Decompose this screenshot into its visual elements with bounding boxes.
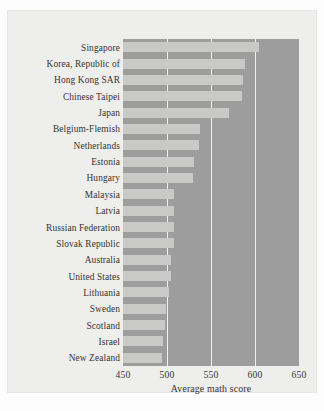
bar-row — [123, 320, 299, 330]
bar — [123, 271, 171, 281]
x-tick-label: 650 — [292, 369, 307, 381]
bar-row — [123, 157, 299, 167]
bar-row — [123, 75, 299, 85]
bar — [123, 75, 243, 85]
x-tick-label: 550 — [204, 369, 219, 381]
gridline-600 — [255, 39, 256, 366]
y-axis-label: Malaysia — [14, 190, 120, 200]
bar — [123, 189, 174, 199]
bar-row — [123, 189, 299, 199]
y-axis-label: Netherlands — [14, 141, 120, 151]
y-axis-label: Japan — [14, 108, 120, 118]
y-axis-label: Russian Federation — [14, 223, 120, 233]
y-axis-category-labels: SingaporeKorea, Republic ofHong Kong SAR… — [14, 39, 120, 366]
x-axis-title: Average math score — [123, 383, 299, 394]
y-axis-label: Israel — [14, 337, 120, 347]
bar — [123, 353, 162, 363]
y-axis-label: Korea, Republic of — [14, 59, 120, 69]
bar-row — [123, 173, 299, 183]
bar — [123, 108, 229, 118]
y-axis-label: Australia — [14, 255, 120, 265]
bar — [123, 336, 163, 346]
y-axis-label: New Zealand — [14, 353, 120, 363]
bar-row — [123, 238, 299, 248]
bar-row — [123, 304, 299, 314]
bar — [123, 287, 169, 297]
bar-row — [123, 140, 299, 150]
bar-row — [123, 108, 299, 118]
y-axis-label: Latvia — [14, 206, 120, 216]
bar — [123, 91, 242, 101]
x-tick-label: 600 — [248, 369, 263, 381]
bar — [123, 222, 174, 232]
y-axis-label: Sweden — [14, 304, 120, 314]
y-axis-label: Slovak Republic — [14, 239, 120, 249]
bar — [123, 140, 199, 150]
x-tick-label: 450 — [116, 369, 131, 381]
y-axis-label: Singapore — [14, 43, 120, 53]
bar-row — [123, 353, 299, 363]
bar-row — [123, 42, 299, 52]
bar — [123, 320, 165, 330]
x-axis-tick-labels: 450500550600650 — [123, 369, 299, 383]
bar — [123, 59, 245, 69]
y-axis-label: Belgium-Flemish — [14, 124, 120, 134]
bar-row — [123, 287, 299, 297]
figure-root: SingaporeKorea, Republic ofHong Kong SAR… — [0, 0, 324, 411]
y-axis-label: Estonia — [14, 157, 120, 167]
y-axis-label: Chinese Taipei — [14, 92, 120, 102]
bar-row — [123, 206, 299, 216]
bar — [123, 173, 193, 183]
bar — [123, 157, 194, 167]
plot-area — [123, 39, 299, 366]
bar — [123, 124, 200, 134]
y-axis-label: Hong Kong SAR — [14, 75, 120, 85]
bar-row — [123, 59, 299, 69]
bar-row — [123, 271, 299, 281]
bar-row — [123, 124, 299, 134]
gridline-550 — [211, 39, 212, 366]
y-axis-label: Lithuania — [14, 288, 120, 298]
chart-panel: SingaporeKorea, Republic ofHong Kong SAR… — [8, 11, 316, 392]
bar — [123, 304, 166, 314]
y-axis-label: Scotland — [14, 321, 120, 331]
bar-row — [123, 222, 299, 232]
bar-row — [123, 255, 299, 265]
x-tick-label: 500 — [160, 369, 175, 381]
bar — [123, 255, 171, 265]
bar — [123, 42, 259, 52]
bar — [123, 206, 174, 216]
bar-row — [123, 336, 299, 346]
bar — [123, 238, 174, 248]
y-axis-label: Hungary — [14, 173, 120, 183]
gridline-500 — [167, 39, 168, 366]
bar-row — [123, 91, 299, 101]
y-axis-label: United States — [14, 272, 120, 282]
